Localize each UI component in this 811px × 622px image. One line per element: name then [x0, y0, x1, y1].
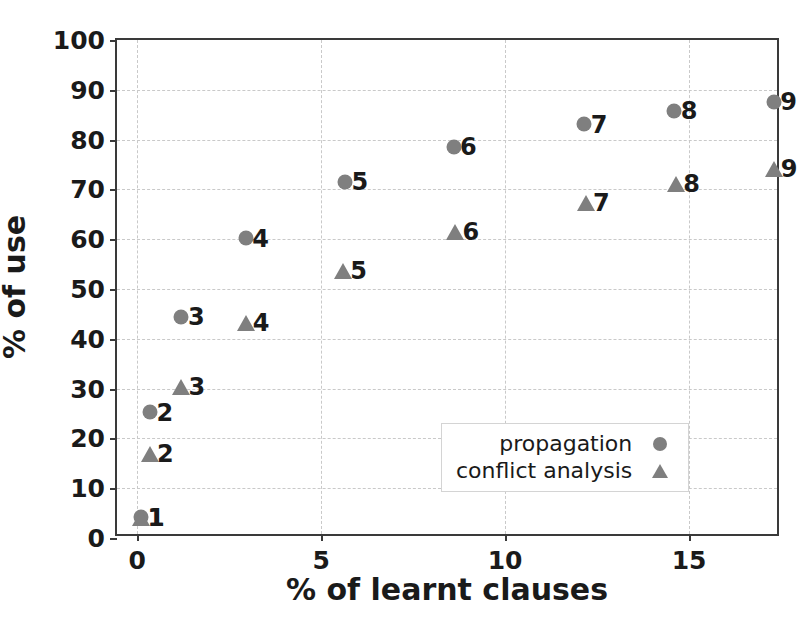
legend-item-conflict-analysis[interactable]: conflict analysis: [456, 457, 678, 484]
data-point-circle-9: 9: [766, 94, 781, 109]
data-point-label: 5: [352, 168, 369, 196]
data-point-label: 7: [593, 189, 610, 217]
circle-marker-icon: [446, 139, 461, 154]
circle-marker-icon: [143, 405, 158, 420]
data-point-triangle-2: 2: [141, 446, 159, 462]
x-tick-label: 5: [312, 546, 329, 575]
y-tick-mark: [110, 239, 117, 241]
data-point-label: 1: [148, 504, 165, 532]
data-point-label: 5: [350, 257, 367, 285]
x-tick-mark: [137, 534, 139, 541]
y-tick-label: 60: [70, 225, 105, 254]
data-point-circle-5: 5: [338, 174, 353, 189]
y-tick-mark: [110, 140, 117, 142]
data-point-circle-7: 7: [577, 117, 592, 132]
data-point-label: 8: [681, 97, 698, 125]
data-point-label: 4: [252, 224, 269, 252]
circle-marker-icon: [653, 437, 667, 451]
data-point-label: 7: [591, 110, 608, 138]
x-tick-label: 0: [129, 546, 146, 575]
x-tick-mark: [321, 534, 323, 541]
gridline-horizontal: [117, 389, 777, 390]
data-point-label: 2: [157, 398, 174, 426]
data-point-label: 8: [683, 170, 700, 198]
data-point-circle-4: 4: [238, 231, 253, 246]
circle-marker-icon: [766, 94, 781, 109]
triangle-marker-icon: [652, 464, 668, 478]
y-tick-label: 70: [70, 175, 105, 204]
x-tick-mark: [505, 534, 507, 541]
y-tick-mark: [110, 90, 117, 92]
x-axis-title: % of learnt clauses: [115, 572, 779, 607]
data-point-circle-6: 6: [446, 139, 461, 154]
y-tick-mark: [110, 538, 117, 540]
legend-item-propagation[interactable]: propagation: [456, 430, 678, 457]
y-tick-label: 10: [70, 474, 105, 503]
legend-label: conflict analysis: [456, 458, 632, 483]
data-point-label: 3: [188, 373, 205, 401]
x-tick-label: 15: [672, 546, 707, 575]
legend-marker-slot: [642, 437, 678, 451]
y-tick-mark: [110, 40, 117, 42]
data-point-label: 3: [188, 303, 205, 331]
y-tick-label: 90: [70, 75, 105, 104]
circle-marker-icon: [238, 231, 253, 246]
gridline-vertical: [321, 40, 322, 534]
gridline-horizontal: [117, 90, 777, 91]
data-point-triangle-4: 4: [237, 315, 255, 331]
y-tick-label: 50: [70, 275, 105, 304]
legend-label: propagation: [499, 431, 632, 456]
y-tick-label: 20: [70, 424, 105, 453]
y-tick-label: 40: [70, 324, 105, 353]
data-point-circle-8: 8: [667, 103, 682, 118]
y-axis-title: % of use: [0, 215, 32, 359]
data-point-triangle-8: 8: [667, 176, 685, 192]
data-point-label: 2: [157, 440, 174, 468]
data-point-circle-3: 3: [174, 309, 189, 324]
data-point-label: 9: [780, 88, 797, 116]
gridline-horizontal: [117, 339, 777, 340]
legend-marker-slot: [642, 464, 678, 478]
x-tick-mark: [689, 534, 691, 541]
scatter-chart-figure: 123456789123456789 010203040506070809010…: [0, 0, 811, 622]
y-tick-mark: [110, 189, 117, 191]
y-tick-label: 0: [88, 524, 105, 553]
data-point-triangle-6: 6: [446, 224, 464, 240]
y-tick-label: 30: [70, 374, 105, 403]
y-tick-label: 80: [70, 125, 105, 154]
data-point-triangle-1: 1: [132, 510, 150, 526]
y-tick-mark: [110, 339, 117, 341]
y-tick-mark: [110, 488, 117, 490]
y-tick-label: 100: [53, 26, 105, 55]
gridline-vertical: [137, 40, 138, 534]
y-tick-mark: [110, 438, 117, 440]
data-point-label: 4: [253, 309, 270, 337]
circle-marker-icon: [667, 103, 682, 118]
data-point-triangle-7: 7: [577, 195, 595, 211]
data-point-triangle-5: 5: [334, 263, 352, 279]
legend: propagationconflict analysis: [441, 423, 689, 492]
data-point-label: 9: [781, 155, 798, 183]
y-tick-mark: [110, 289, 117, 291]
data-point-triangle-9: 9: [765, 161, 783, 177]
circle-marker-icon: [174, 309, 189, 324]
gridline-horizontal: [117, 289, 777, 290]
data-point-label: 6: [462, 218, 479, 246]
x-tick-label: 10: [488, 546, 523, 575]
circle-marker-icon: [577, 117, 592, 132]
data-point-triangle-3: 3: [172, 379, 190, 395]
data-point-circle-2: 2: [143, 405, 158, 420]
y-tick-mark: [110, 389, 117, 391]
data-point-label: 6: [460, 133, 477, 161]
circle-marker-icon: [338, 174, 353, 189]
